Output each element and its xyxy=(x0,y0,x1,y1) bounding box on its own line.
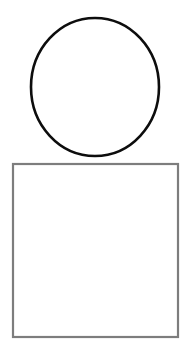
shape-canvas-svg xyxy=(0,0,190,355)
drawing-canvas xyxy=(0,0,190,355)
canvas-background xyxy=(0,0,190,355)
